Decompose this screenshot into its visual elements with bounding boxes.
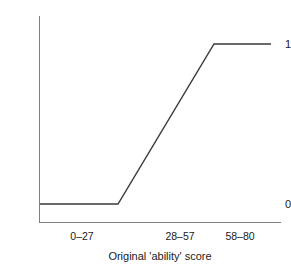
x-tick-label-1: 28–57 (165, 230, 194, 243)
x-axis-title: Original 'ability' score (39, 250, 281, 262)
fuzzy-membership-line (40, 44, 271, 204)
x-tick-label-0: 0–27 (70, 230, 93, 243)
fuzzy-ability-score-chart: Fuzzy 'ability' scores 1 0 0–27 28–57 58… (0, 0, 291, 274)
x-tick-label-2: 58–80 (225, 230, 254, 243)
